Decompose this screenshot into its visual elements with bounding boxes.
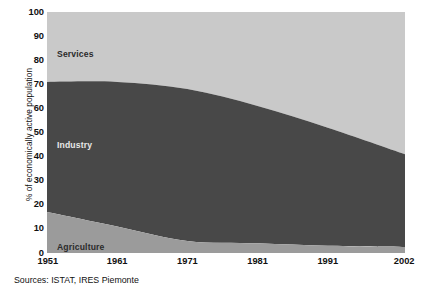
y-tick-label: 70 — [18, 80, 44, 89]
y-tick-label: 40 — [18, 152, 44, 161]
y-tick-label: 30 — [18, 176, 44, 185]
y-axis-tick-labels: 100 90 80 70 60 50 40 30 20 10 0 — [14, 0, 44, 296]
x-tick-label: 1991 — [317, 256, 338, 266]
band-label-services: Services — [57, 49, 94, 59]
x-tick-label: 1961 — [107, 256, 128, 266]
y-tick-label: 50 — [18, 128, 44, 137]
area-chart: % of economically active population 100 … — [0, 0, 423, 296]
x-tick-label: 1971 — [177, 256, 198, 266]
band-label-agriculture: Agriculture — [57, 242, 105, 252]
source-note: Sources: ISTAT, IRES Piemonte — [14, 275, 139, 285]
y-tick-label: 80 — [18, 56, 44, 65]
x-tick-label: 1981 — [247, 256, 268, 266]
x-tick-label: 2002 — [394, 256, 415, 266]
y-tick-label: 100 — [18, 8, 44, 17]
stacked-area-svg — [47, 12, 405, 253]
y-tick-label: 60 — [18, 104, 44, 113]
band-label-industry: Industry — [57, 140, 92, 150]
x-tick-label: 1951 — [37, 256, 58, 266]
y-tick-label: 10 — [18, 224, 44, 233]
y-tick-label: 90 — [18, 32, 44, 41]
plot-area: Services Industry Agriculture — [47, 12, 405, 253]
y-tick-label: 20 — [18, 200, 44, 209]
